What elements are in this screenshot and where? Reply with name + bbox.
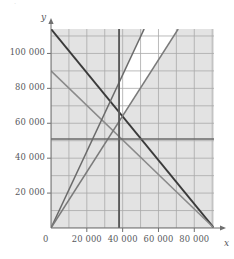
y-axis-label: y	[41, 12, 46, 22]
y-tick-label: 40 000	[15, 152, 45, 162]
x-tick-label: 80 000	[179, 234, 209, 244]
plot-canvas	[0, 0, 234, 259]
chart-figure: · y x 0 20 00040 00060 00080 000100 000 …	[0, 0, 234, 259]
origin-label: 0	[43, 234, 48, 244]
x-tick-label: 20 000	[72, 234, 102, 244]
x-axis-label: x	[224, 238, 229, 248]
y-tick-label: 20 000	[15, 187, 45, 197]
y-tick-label: 60 000	[15, 117, 45, 127]
y-axis-arrow-icon	[48, 18, 53, 24]
x-tick-label: 60 000	[144, 234, 174, 244]
x-tick-label: 40 000	[108, 234, 138, 244]
y-tick-label: 100 000	[10, 47, 45, 57]
y-tick-label: 80 000	[15, 82, 45, 92]
x-axis-arrow-icon	[220, 225, 226, 230]
